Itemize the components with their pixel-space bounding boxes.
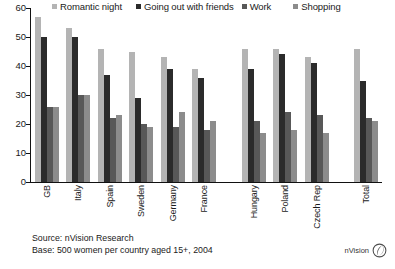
y-tick-mark bbox=[26, 8, 30, 9]
bar-group-gb bbox=[31, 8, 63, 182]
x-axis-tick-labels: GBItalySpainSwedenGermanyFranceHungaryPo… bbox=[31, 183, 382, 229]
x-tick-cell: Poland bbox=[270, 183, 302, 229]
bar bbox=[53, 107, 59, 182]
y-tick-mark bbox=[26, 37, 30, 38]
bar-chart: Romantic nightGoing out with friendsWork… bbox=[0, 0, 395, 269]
x-tick-label: Germany bbox=[168, 185, 178, 221]
y-axis-tick-labels: 0102030405060 bbox=[0, 0, 26, 190]
bar-group-germany bbox=[157, 8, 189, 182]
y-tick-label: 20 bbox=[2, 119, 26, 128]
chart-footnotes: Source: nVision Research Base: 500 women… bbox=[32, 233, 213, 256]
bar bbox=[323, 133, 329, 182]
source-note: Source: nVision Research bbox=[32, 233, 213, 245]
brand-name: nVision bbox=[345, 246, 369, 255]
x-tick-label: Italy bbox=[73, 185, 83, 201]
x-tick-label: Total bbox=[361, 185, 371, 204]
y-tick-mark bbox=[26, 182, 30, 183]
bar bbox=[147, 127, 153, 182]
x-tick-cell: Czech Rep bbox=[301, 183, 333, 229]
x-tick-label: GB bbox=[42, 185, 52, 198]
nvision-leaf-icon bbox=[372, 243, 387, 258]
bar bbox=[291, 130, 297, 182]
y-tick-label: 40 bbox=[2, 61, 26, 70]
x-tick-cell: Sweden bbox=[126, 183, 158, 229]
x-tick-cell: Hungary bbox=[238, 183, 270, 229]
y-tick-label: 60 bbox=[2, 3, 26, 12]
x-tick-cell: Spain bbox=[94, 183, 126, 229]
y-tick-mark bbox=[26, 95, 30, 96]
x-tick-label: France bbox=[199, 185, 209, 212]
bar bbox=[372, 121, 378, 182]
bar-group-poland bbox=[270, 8, 302, 182]
bar bbox=[210, 121, 216, 182]
x-tick-label: Spain bbox=[105, 185, 115, 208]
base-note: Base: 500 women per country aged 15+, 20… bbox=[32, 245, 213, 257]
bar-group-czech-rep bbox=[301, 8, 333, 182]
bar bbox=[179, 112, 185, 182]
bar-groups bbox=[31, 8, 382, 182]
brand-logo: nVision bbox=[345, 243, 387, 258]
x-tick-label: Sweden bbox=[136, 185, 146, 217]
y-tick-label: 50 bbox=[2, 32, 26, 41]
bar bbox=[116, 115, 122, 182]
x-tick-label: Czech Rep bbox=[312, 185, 322, 229]
x-tick-cell: France bbox=[189, 183, 221, 229]
bar-group-italy bbox=[63, 8, 95, 182]
bar-group-france bbox=[189, 8, 221, 182]
x-tick-label: Poland bbox=[280, 185, 290, 212]
bar bbox=[84, 95, 90, 182]
x-tick-cell: GB bbox=[31, 183, 63, 229]
y-tick-label: 10 bbox=[2, 148, 26, 157]
y-tick-mark bbox=[26, 66, 30, 67]
y-tick-label: 0 bbox=[2, 177, 26, 186]
x-tick-cell: Italy bbox=[63, 183, 95, 229]
bar-group-total bbox=[351, 8, 383, 182]
x-tick-label: Hungary bbox=[249, 185, 259, 218]
bar bbox=[260, 133, 266, 182]
x-tick-cell: Total bbox=[351, 183, 383, 229]
y-tick-mark bbox=[26, 153, 30, 154]
y-tick-label: 30 bbox=[2, 90, 26, 99]
bar-group-hungary bbox=[238, 8, 270, 182]
bar-group-spain bbox=[94, 8, 126, 182]
bar-group-sweden bbox=[126, 8, 158, 182]
x-tick-cell: Germany bbox=[157, 183, 189, 229]
y-tick-mark bbox=[26, 124, 30, 125]
